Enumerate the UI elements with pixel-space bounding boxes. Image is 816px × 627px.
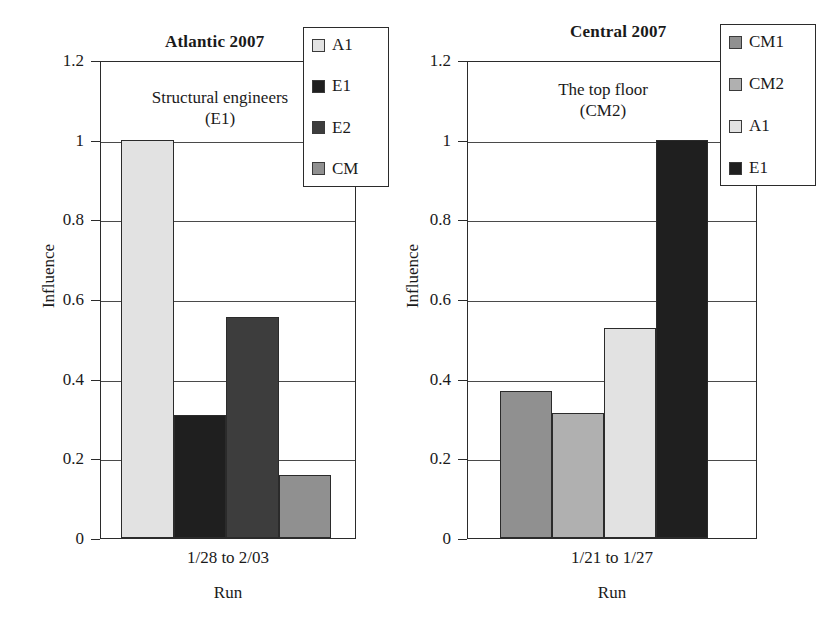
legend-item-cm: CM <box>312 159 378 179</box>
y-tick-label: 0.4 <box>36 370 84 390</box>
y-tick-label: 0.2 <box>36 449 84 469</box>
legend-label: E1 <box>332 76 351 96</box>
legend-swatch-icon <box>312 121 325 134</box>
legend-item-cm2: CM2 <box>729 74 805 94</box>
y-tick-mark <box>91 459 100 460</box>
x-tick-label: 1/21 to 1/27 <box>467 548 757 568</box>
bar-group <box>121 62 331 538</box>
legend-label: CM1 <box>749 32 784 52</box>
chart-panel-central: Central 2007 Influence The top floor (CM… <box>407 0 814 627</box>
y-axis-title: Influence <box>39 221 59 331</box>
legend-label: CM2 <box>749 74 784 94</box>
legend-item-a1: A1 <box>729 116 805 136</box>
bar-cm <box>279 475 332 538</box>
legend-swatch-icon <box>729 120 742 133</box>
legend-swatch-icon <box>729 36 742 49</box>
legend-item-a1: A1 <box>312 35 378 55</box>
y-tick-mark <box>458 539 467 540</box>
y-axis-title: Influence <box>403 221 423 331</box>
y-tick-label: 1 <box>36 131 84 151</box>
bar-a1 <box>121 140 174 538</box>
y-tick-mark <box>91 141 100 142</box>
x-axis-title: Run <box>100 583 356 603</box>
chart-legend: A1E1E2CM <box>303 27 389 187</box>
legend-label: A1 <box>332 35 353 55</box>
y-tick-mark <box>458 300 467 301</box>
y-tick-mark <box>458 459 467 460</box>
legend-item-e1: E1 <box>312 76 378 96</box>
y-tick-label: 1.2 <box>36 51 84 71</box>
y-tick-label: 0.6 <box>403 290 451 310</box>
y-tick-label: 1.2 <box>403 51 451 71</box>
legend-label: CM <box>332 159 358 179</box>
legend-swatch-icon <box>312 39 325 52</box>
y-tick-label: 0.2 <box>403 449 451 469</box>
legend-label: E1 <box>749 158 768 178</box>
y-tick-label: 0.8 <box>36 210 84 230</box>
legend-swatch-icon <box>729 162 742 175</box>
annotation-line-1: The top floor <box>467 80 739 101</box>
legend-swatch-icon <box>312 80 325 93</box>
y-tick-mark <box>91 380 100 381</box>
bar-cm2 <box>552 413 604 538</box>
y-tick-mark <box>91 300 100 301</box>
legend-item-e2: E2 <box>312 118 378 138</box>
bar-group <box>500 62 708 538</box>
bar-a1 <box>604 328 656 538</box>
bar-e1 <box>174 415 227 538</box>
y-tick-label: 1 <box>403 131 451 151</box>
bar-e2 <box>226 317 279 538</box>
chart-legend: CM1CM2A1E1 <box>720 24 816 186</box>
chart-title: Atlantic 2007 <box>165 32 264 52</box>
y-tick-label: 0.6 <box>36 290 84 310</box>
legend-item-e1: E1 <box>729 158 805 178</box>
annotation-line-2: (CM2) <box>467 101 739 122</box>
x-axis-title: Run <box>467 583 757 603</box>
y-tick-label: 0.8 <box>403 210 451 230</box>
y-tick-label: 0 <box>36 529 84 549</box>
x-tick-label: 1/28 to 2/03 <box>100 548 356 568</box>
legend-label: E2 <box>332 118 351 138</box>
y-tick-label: 0.4 <box>403 370 451 390</box>
y-tick-label: 0 <box>403 529 451 549</box>
y-tick-mark <box>91 220 100 221</box>
legend-swatch-icon <box>729 78 742 91</box>
chart-title: Central 2007 <box>570 22 666 42</box>
bar-cm1 <box>500 391 552 538</box>
chart-panel-atlantic: Atlantic 2007 Influence Structural engin… <box>0 0 407 627</box>
y-tick-mark <box>458 61 467 62</box>
legend-label: A1 <box>749 116 770 136</box>
plot-area <box>467 61 757 539</box>
y-tick-mark <box>458 220 467 221</box>
y-tick-mark <box>458 380 467 381</box>
y-tick-mark <box>458 141 467 142</box>
bar-e1 <box>656 140 708 538</box>
y-tick-mark <box>91 61 100 62</box>
legend-item-cm1: CM1 <box>729 32 805 52</box>
chart-annotation: The top floor (CM2) <box>467 80 739 121</box>
y-tick-mark <box>91 539 100 540</box>
legend-swatch-icon <box>312 162 325 175</box>
